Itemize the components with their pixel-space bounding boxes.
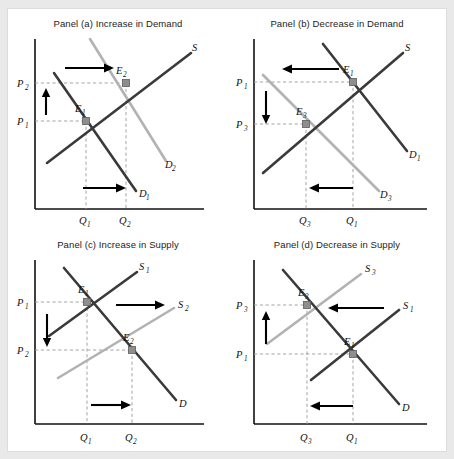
quantity-change-arrow-head xyxy=(309,184,319,193)
equilibrium-label-e3: E xyxy=(297,287,305,298)
price-label-p1-sub: 1 xyxy=(25,303,29,311)
curve-label-s3: S xyxy=(365,263,371,274)
equilibrium-label-e3-sub: 3 xyxy=(302,112,307,120)
quantity-label-q1: Q xyxy=(346,432,354,443)
supply-shift-arrow-head xyxy=(328,304,338,313)
panel-b-plot: S D 1 D 3 E 1 E 3 P 1 P 3 Q 3 Q 1 xyxy=(227,31,447,229)
equilibrium-label-e1-sub: 1 xyxy=(350,70,354,78)
price-label-p1-sub: 1 xyxy=(244,83,248,91)
equilibrium-marker-e1 xyxy=(84,299,91,306)
price-label-p2: P xyxy=(16,345,24,356)
curve-label-d1-sub: 1 xyxy=(146,194,150,202)
curve-label-s2-sub: 2 xyxy=(185,305,189,313)
equilibrium-label-e1-sub: 1 xyxy=(82,109,86,117)
curve-s xyxy=(263,53,403,173)
equilibrium-label-e1: E xyxy=(343,336,351,347)
panel-d: Panel (d) Decrease in Supply xyxy=(227,230,447,452)
curve-label-d3-sub: 3 xyxy=(387,195,392,203)
price-label-p3: P xyxy=(235,119,243,130)
supply-shift-arrow-head xyxy=(155,301,165,310)
curve-label-s: S xyxy=(405,42,411,53)
curve-label-d1-sub: 1 xyxy=(417,155,421,163)
quantity-label-q2: Q xyxy=(125,432,133,443)
equilibrium-marker-e1 xyxy=(350,79,357,86)
equilibrium-marker-e3 xyxy=(303,121,310,128)
curve-label-d2-sub: 2 xyxy=(172,165,176,173)
curve-label-s2: S xyxy=(178,299,184,310)
equilibrium-label-e2: E xyxy=(115,65,123,76)
price-change-arrow-head xyxy=(262,115,270,124)
panel-d-plot: S 1 S 3 D E 3 E 1 P 3 P 1 Q 3 Q 1 xyxy=(227,252,447,450)
equilibrium-label-e1-sub: 1 xyxy=(85,290,89,298)
curve-label-d: D xyxy=(178,398,187,409)
curve-label-d: D xyxy=(401,402,410,413)
panel-b: Panel (b) Decrease in Demand xyxy=(227,9,447,231)
panel-b-title: Panel (b) Decrease in Demand xyxy=(227,18,447,29)
price-label-p2-sub: 2 xyxy=(25,84,29,92)
panel-c-plot: S 1 S 2 D E 1 E 2 P 1 P 2 Q 1 Q 2 xyxy=(8,252,228,450)
quantity-label-q2-sub: 2 xyxy=(133,438,137,446)
curve-label-s: S xyxy=(192,42,198,53)
quantity-label-q1-sub: 1 xyxy=(354,221,358,229)
panel-a: Panel (a) Increase in Demand xyxy=(8,9,228,231)
quantity-label-q1: Q xyxy=(80,432,88,443)
price-label-p1: P xyxy=(16,297,24,308)
equilibrium-label-e1: E xyxy=(342,64,350,75)
equilibrium-label-e2-sub: 2 xyxy=(130,338,134,346)
equilibrium-label-e1: E xyxy=(77,284,85,295)
curve-label-d1: D xyxy=(408,149,417,160)
equilibrium-marker-e1 xyxy=(83,118,90,125)
equilibrium-label-e1: E xyxy=(74,103,82,114)
price-label-p2: P xyxy=(16,78,24,89)
curve-label-s1: S xyxy=(139,261,145,272)
quantity-label-q3: Q xyxy=(300,432,308,443)
figure-card: Panel (a) Increase in Demand xyxy=(7,8,447,452)
quantity-change-arrow-head xyxy=(121,401,131,410)
equilibrium-marker-e2 xyxy=(129,347,136,354)
panel-d-title: Panel (d) Decrease in Supply xyxy=(227,239,447,250)
equilibrium-label-e2-sub: 2 xyxy=(123,71,127,79)
price-change-arrow-head xyxy=(42,88,50,97)
price-change-arrow-head xyxy=(262,311,270,320)
equilibrium-label-e2: E xyxy=(122,332,130,343)
equilibrium-label-e3: E xyxy=(295,106,303,117)
price-label-p2-sub: 2 xyxy=(25,351,29,359)
panel-c-title: Panel (c) Increase in Supply xyxy=(8,239,228,250)
curve-label-d3: D xyxy=(379,189,388,200)
curve-label-s1-sub: 1 xyxy=(146,267,150,275)
quantity-label-q3-sub: 3 xyxy=(307,438,312,446)
equilibrium-marker-e3 xyxy=(304,302,311,309)
price-label-p1: P xyxy=(235,349,243,360)
panel-a-title: Panel (a) Increase in Demand xyxy=(8,18,228,29)
panel-a-plot: S D 1 D 2 E 1 E 2 P 2 P 1 Q 1 Q 2 xyxy=(8,31,228,229)
equilibrium-label-e3-sub: 3 xyxy=(304,293,309,301)
quantity-label-q2-sub: 2 xyxy=(127,221,131,229)
price-label-p3-sub: 3 xyxy=(243,125,248,133)
quantity-change-arrow-head xyxy=(116,184,126,193)
panel-c: Panel (c) Increase in Supply xyxy=(8,230,228,452)
quantity-label-q1-sub: 1 xyxy=(87,221,91,229)
price-label-p3-sub: 3 xyxy=(243,306,248,314)
curve-s2 xyxy=(58,308,174,378)
quantity-change-arrow-head xyxy=(310,402,320,411)
quantity-label-q1: Q xyxy=(346,215,354,226)
quantity-label-q3: Q xyxy=(299,215,307,226)
price-label-p1: P xyxy=(235,77,243,88)
quantity-label-q1-sub: 1 xyxy=(354,438,358,446)
curve-label-s3-sub: 3 xyxy=(371,269,376,277)
quantity-label-q1-sub: 1 xyxy=(88,438,92,446)
price-label-p3: P xyxy=(235,300,243,311)
equilibrium-label-e1-sub: 1 xyxy=(351,342,355,350)
price-label-p1-sub: 1 xyxy=(25,122,29,130)
equilibrium-marker-e1 xyxy=(350,351,357,358)
quantity-label-q2: Q xyxy=(119,215,127,226)
quantity-label-q3-sub: 3 xyxy=(306,221,311,229)
curve-label-s1-sub: 1 xyxy=(410,306,414,314)
quantity-label-q1: Q xyxy=(79,215,87,226)
curve-label-s1: S xyxy=(403,300,409,311)
price-label-p1: P xyxy=(16,116,24,127)
price-label-p1-sub: 1 xyxy=(244,355,248,363)
price-change-arrow-head xyxy=(43,338,51,347)
demand-shift-arrow-head xyxy=(282,65,292,74)
curve-s1 xyxy=(311,310,399,380)
